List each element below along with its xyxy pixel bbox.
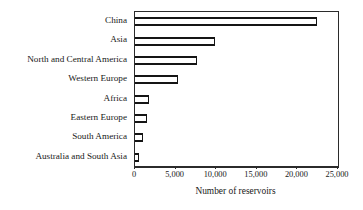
reservoirs-bar-chart: ChinaAsiaNorth and Central AmericaWester… xyxy=(0,0,363,210)
x-tick-label: 5,000 xyxy=(165,171,184,179)
bar-row xyxy=(135,31,338,50)
bar xyxy=(135,56,197,65)
x-tick-label: 20,000 xyxy=(285,171,308,179)
x-axis-title: Number of reservoirs xyxy=(134,187,337,196)
bar-row xyxy=(135,128,338,147)
category-label-row: Eastern Europe xyxy=(0,108,131,127)
bar-row xyxy=(135,70,338,89)
x-tick xyxy=(337,166,338,169)
category-axis: ChinaAsiaNorth and Central AmericaWester… xyxy=(0,11,131,166)
category-label: Africa xyxy=(104,94,127,103)
category-label: North and Central America xyxy=(27,55,127,64)
category-label: Eastern Europe xyxy=(71,113,127,122)
bar-row xyxy=(135,51,338,70)
category-label: South America xyxy=(72,132,127,141)
category-label-row: Australia and South Asia xyxy=(0,147,131,166)
category-label-row: China xyxy=(0,11,131,30)
plot-area xyxy=(134,11,339,168)
bar xyxy=(135,75,178,84)
bar xyxy=(135,133,143,142)
bars-layer xyxy=(135,12,338,167)
bar xyxy=(135,17,317,26)
x-axis: 05,00010,00015,00020,00025,000 xyxy=(134,166,337,167)
x-tick-label: 10,000 xyxy=(204,171,227,179)
x-tick-label: 0 xyxy=(132,171,136,179)
x-tick xyxy=(296,166,297,169)
bar xyxy=(135,37,215,46)
bar xyxy=(135,95,149,104)
bar xyxy=(135,114,147,123)
category-label-row: South America xyxy=(0,127,131,146)
bar-row xyxy=(135,109,338,128)
x-tick-label: 15,000 xyxy=(244,171,267,179)
bar-row xyxy=(135,90,338,109)
category-label: Asia xyxy=(110,35,127,44)
bar-row xyxy=(135,148,338,167)
category-label: China xyxy=(105,16,127,25)
category-label: Australia and South Asia xyxy=(35,152,127,161)
x-tick xyxy=(175,166,176,169)
bar xyxy=(135,153,139,162)
category-label-row: Asia xyxy=(0,30,131,49)
x-tick xyxy=(134,166,135,169)
category-label-row: North and Central America xyxy=(0,50,131,69)
x-tick xyxy=(215,166,216,169)
category-label-row: Western Europe xyxy=(0,69,131,88)
category-label-row: Africa xyxy=(0,89,131,108)
bar-row xyxy=(135,12,338,31)
category-label: Western Europe xyxy=(68,74,127,83)
x-tick-label: 25,000 xyxy=(325,171,348,179)
x-tick xyxy=(256,166,257,169)
